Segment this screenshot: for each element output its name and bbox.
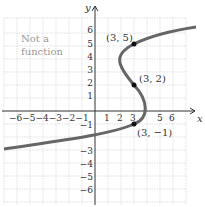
svg-text:−6−5−4−3−2−1: −6−5−4−3−2−1 (9, 113, 89, 123)
svg-text:−4: −4 (80, 159, 94, 169)
svg-text:1: 1 (87, 91, 93, 101)
x-axis-label: x (197, 113, 203, 124)
svg-text:5: 5 (157, 113, 163, 123)
svg-text:1: 1 (104, 113, 110, 123)
svg-text:3: 3 (130, 113, 136, 123)
svg-text:−6: −6 (80, 185, 94, 195)
svg-text:2: 2 (117, 113, 123, 123)
point-label-3-2: (3, 2) (139, 73, 166, 84)
svg-text:−1: −1 (80, 120, 93, 130)
graph: x y −6−5−4−3−2−1 123 56 654 321 −1−3−4 −… (0, 0, 205, 207)
point-label-3-5: (3, 5) (106, 32, 133, 43)
point-3-neg1 (132, 122, 137, 127)
svg-text:2: 2 (87, 78, 93, 88)
svg-text:4: 4 (87, 52, 93, 62)
svg-text:−5: −5 (80, 172, 94, 182)
note-line-1: Not a (21, 33, 49, 44)
note-line-2: function (21, 46, 63, 57)
svg-text:6: 6 (169, 113, 175, 123)
y-axis-label: y (84, 2, 91, 13)
svg-text:5: 5 (87, 39, 93, 49)
point-3-2 (132, 83, 137, 88)
svg-text:3: 3 (87, 65, 93, 75)
svg-text:6: 6 (87, 25, 93, 35)
svg-text:−3: −3 (80, 146, 94, 156)
point-label-3-neg1: (3, −1) (137, 127, 172, 138)
